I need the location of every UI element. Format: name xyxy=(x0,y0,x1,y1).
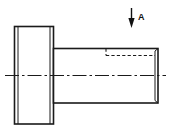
technical-drawing-canvas: A xyxy=(0,0,169,135)
section-arrow-group: A xyxy=(128,8,145,28)
drawing-svg: A xyxy=(0,0,169,135)
section-arrow-label: A xyxy=(138,12,145,22)
down-arrow-icon-head xyxy=(128,18,134,28)
